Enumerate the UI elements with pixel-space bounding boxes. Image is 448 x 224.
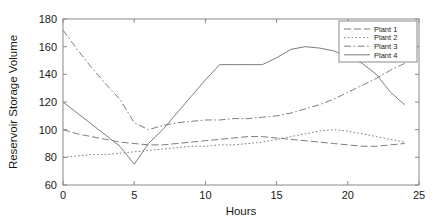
y-tick-label: 80 <box>45 151 57 163</box>
x-tick-label: 10 <box>199 189 211 201</box>
chart-legend: Plant 1Plant 2Plant 3Plant 4 <box>339 21 417 62</box>
y-tick-label: 60 <box>45 179 57 191</box>
y-tick-label: 140 <box>39 68 57 80</box>
x-tick-label: 25 <box>413 189 425 201</box>
x-tick-label: 5 <box>131 189 137 201</box>
x-tick-label: 20 <box>342 189 354 201</box>
chart-figure: 6080100120140160180 0510152025 Plant 1Pl… <box>0 0 448 224</box>
x-axis-title: Hours <box>226 205 257 217</box>
y-tick-label: 180 <box>39 13 57 25</box>
y-axis-title: Reservoir Storage Volume <box>7 35 19 169</box>
x-tick-label: 0 <box>60 189 66 201</box>
x-tick-label: 15 <box>270 189 282 201</box>
line-chart: 6080100120140160180 0510152025 Plant 1Pl… <box>0 0 448 224</box>
y-tick-label: 100 <box>39 124 57 136</box>
y-tick-label: 120 <box>39 96 57 108</box>
y-tick-label: 160 <box>39 41 57 53</box>
legend-label-4: Plant 4 <box>374 51 397 60</box>
